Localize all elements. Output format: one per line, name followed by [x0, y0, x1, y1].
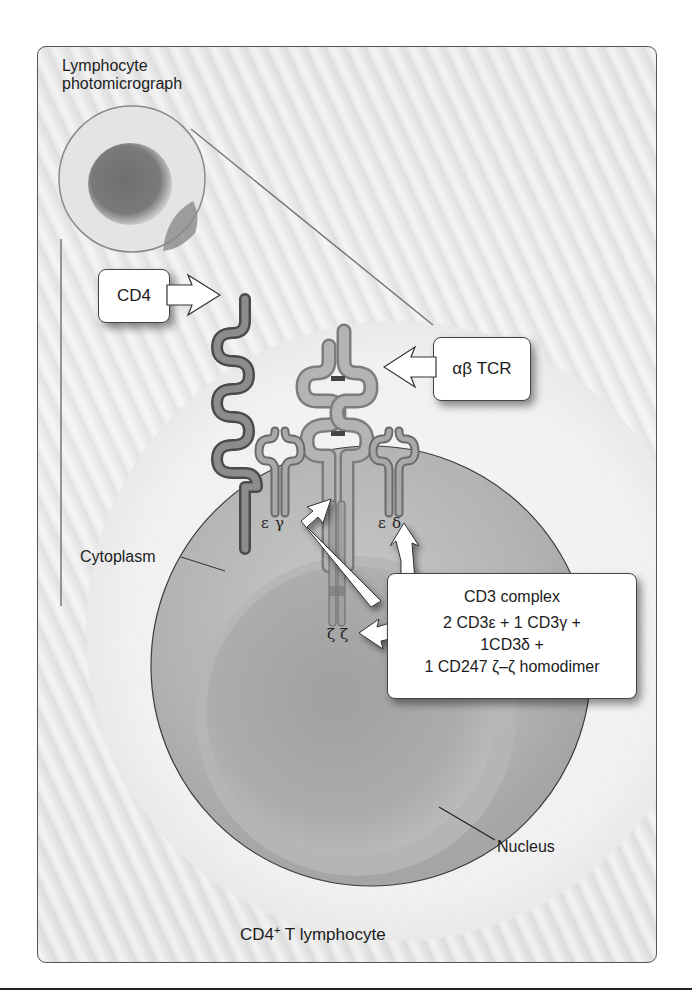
cell-title-main: CD4 [240, 925, 274, 944]
delta-label: δ [392, 514, 401, 532]
cytoplasm-label: Cytoplasm [80, 547, 156, 566]
cd3-callout-line2: 1CD3δ + [388, 634, 636, 656]
bottom-divider [0, 988, 692, 990]
tcr-callout: αβ TCR [433, 337, 531, 401]
zeta-pair-label: ζ ζ [327, 625, 348, 643]
diagram-panel: Lymphocyte photomicrograph CD4 αβ TCR ε … [37, 46, 657, 963]
tcr-arrow-icon [383, 345, 437, 389]
cell-title-rest: T lymphocyte [280, 925, 385, 944]
cell-title: CD4+ T lymphocyte [240, 921, 386, 944]
cell-illustration [38, 47, 656, 962]
epsilon-left-label: ε [261, 514, 269, 532]
epsilon-right-label: ε [378, 514, 386, 532]
cd3-callout-line3: 1 CD247 ζ–ζ homodimer [388, 656, 636, 678]
cd3-callout-line1: 2 CD3ε + 1 CD3γ + [388, 612, 636, 634]
tcr-label: αβ TCR [452, 359, 511, 378]
cd3-callout-title: CD3 complex [388, 586, 636, 608]
cd4-label: CD4 [117, 286, 151, 305]
photomicrograph-label-line1: Lymphocyte [62, 57, 182, 75]
gamma-label: γ [275, 514, 284, 532]
cd4-arrow-icon [166, 273, 224, 319]
nucleus-label: Nucleus [497, 837, 555, 856]
cd4-callout: CD4 [98, 269, 170, 323]
photomicrograph-label-line2: photomicrograph [62, 75, 182, 93]
photomicrograph-label: Lymphocyte photomicrograph [62, 57, 182, 93]
cd3-complex-callout: CD3 complex 2 CD3ε + 1 CD3γ + 1CD3δ + 1 … [387, 573, 637, 699]
